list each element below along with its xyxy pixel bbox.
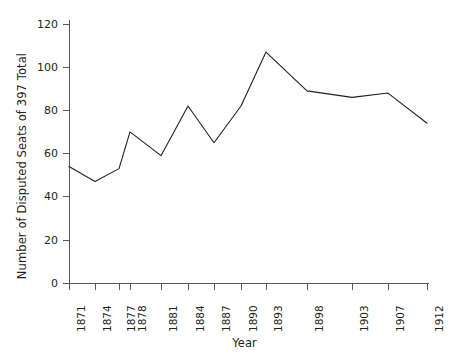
x-tick-1887	[214, 284, 215, 290]
y-tick-60	[63, 153, 69, 154]
x-tick-text-1893: 1893	[271, 292, 285, 332]
x-tick-text-1907: 1907	[393, 292, 407, 332]
x-tick-label-1887: 1887	[207, 292, 221, 332]
y-axis-line	[69, 20, 70, 284]
y-tick-20	[63, 240, 69, 241]
y-tick-label-120-wrap: 120	[24, 19, 58, 30]
x-tick-1884	[188, 284, 189, 290]
x-tick-1878	[130, 284, 131, 290]
x-tick-1903	[352, 284, 353, 290]
y-tick-40	[63, 196, 69, 197]
x-axis-title: Year	[0, 336, 451, 350]
x-tick-text-1903: 1903	[357, 292, 371, 332]
y-tick-label-0: 0	[24, 278, 58, 289]
x-tick-1881	[161, 284, 162, 290]
y-tick-120	[63, 24, 69, 25]
y-tick-label-40: 40	[24, 191, 58, 202]
x-tick-text-1871: 1871	[74, 292, 88, 332]
x-tick-label-1893: 1893	[259, 292, 273, 332]
x-axis-line	[69, 283, 429, 284]
x-tick-1893	[266, 284, 267, 290]
x-tick-1874	[95, 284, 96, 290]
line-chart: Number of Disputed Seats of 397 Total 12…	[0, 0, 451, 358]
x-tick-label-1890: 1890	[234, 292, 248, 332]
x-tick-1907	[388, 284, 389, 290]
y-tick-label-40-wrap: 40	[24, 191, 58, 202]
y-tick-label-120: 120	[24, 19, 58, 30]
x-tick-label-1884: 1884	[181, 292, 195, 332]
x-tick-label-1903: 1903	[345, 292, 359, 332]
x-tick-1871	[69, 284, 70, 290]
x-tick-label-1907: 1907	[381, 292, 395, 332]
x-tick-text-1890: 1890	[246, 292, 260, 332]
x-tick-text-1912: 1912	[432, 292, 446, 332]
y-tick-label-80-wrap: 80	[24, 105, 58, 116]
x-tick-text-1898: 1898	[312, 292, 326, 332]
x-tick-text-1881: 1881	[166, 292, 180, 332]
x-tick-label-1912: 1912	[420, 292, 434, 332]
y-tick-label-100: 100	[24, 62, 58, 73]
y-tick-label-20-wrap: 20	[24, 235, 58, 246]
x-tick-label-1898: 1898	[300, 292, 314, 332]
y-tick-label-0-wrap: 0	[24, 278, 58, 289]
y-tick-80	[63, 110, 69, 111]
x-tick-label-1878: 1878	[123, 292, 137, 332]
x-tick-text-1884: 1884	[193, 292, 207, 332]
y-tick-label-60: 60	[24, 148, 58, 159]
x-tick-1912	[427, 284, 428, 290]
series-line-disputed-seats	[69, 52, 427, 182]
y-tick-100	[63, 67, 69, 68]
x-axis-title-text: Year	[194, 336, 256, 350]
x-tick-1877	[119, 284, 120, 290]
x-tick-1898	[307, 284, 308, 290]
y-tick-label-80: 80	[24, 105, 58, 116]
x-tick-1890	[241, 284, 242, 290]
y-tick-label-60-wrap: 60	[24, 148, 58, 159]
y-tick-label-100-wrap: 100	[24, 62, 58, 73]
x-tick-text-1878: 1878	[135, 292, 149, 332]
y-tick-label-20: 20	[24, 235, 58, 246]
x-tick-label-1874: 1874	[88, 292, 102, 332]
x-tick-label-1881: 1881	[154, 292, 168, 332]
x-tick-label-1871: 1871	[62, 292, 76, 332]
x-tick-text-1887: 1887	[219, 292, 233, 332]
